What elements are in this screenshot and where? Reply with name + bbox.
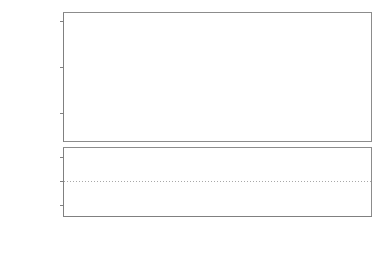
plot-canvas (0, 0, 384, 264)
top-panel-y-axis (60, 13, 64, 142)
regression-diagnostic-figure (0, 0, 384, 264)
residuals-panel-y-axis (60, 148, 64, 217)
top-panel (60, 13, 372, 142)
residuals-panel (60, 148, 372, 217)
top-panel-frame (64, 13, 372, 142)
